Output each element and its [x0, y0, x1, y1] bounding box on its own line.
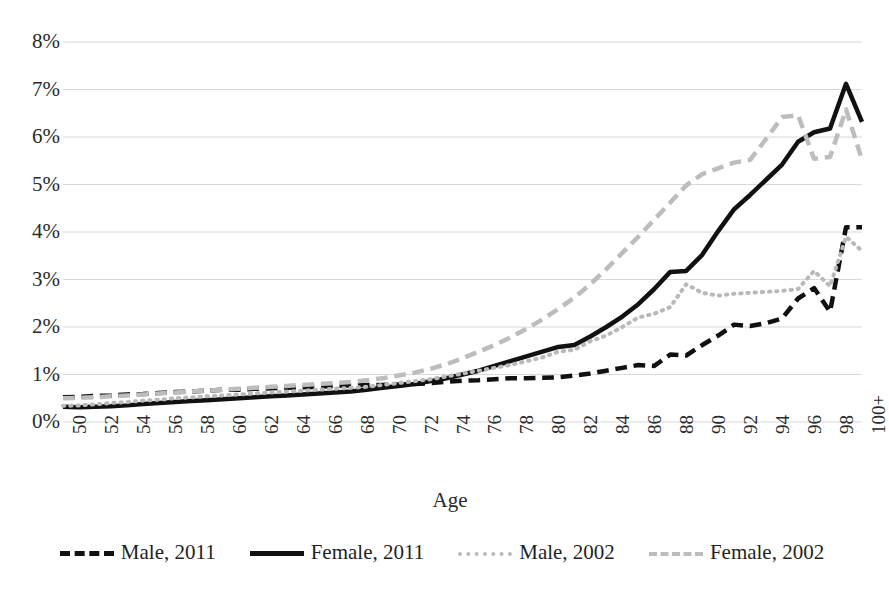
legend-item-female-2011[interactable]: Female, 2011: [250, 540, 425, 565]
x-tick-label: 52: [102, 415, 121, 434]
chart-legend: Male, 2011 Female, 2011 Male, 2002 Femal…: [0, 540, 884, 565]
x-tick-label: 72: [422, 415, 441, 434]
x-tick-label: 82: [581, 415, 600, 434]
x-tick-label: 62: [262, 415, 281, 434]
x-axis-title: Age: [350, 488, 550, 513]
x-tick-label: 76: [485, 415, 504, 434]
x-tick-label: 86: [645, 415, 664, 434]
x-tick-label: 80: [549, 415, 568, 434]
x-tick-label: 88: [677, 415, 696, 434]
x-tick-label: 70: [390, 415, 409, 434]
legend-swatch-dashed-black-icon: [60, 551, 114, 556]
x-tick-label: 64: [294, 415, 313, 434]
series-line-male-2011: [63, 227, 862, 397]
legend-swatch-dashed-gray-icon: [649, 552, 703, 556]
x-tick-label: 100+: [869, 395, 888, 434]
x-tick-label: 94: [773, 415, 792, 434]
legend-item-female-2002[interactable]: Female, 2002: [649, 540, 824, 565]
x-tick-label: 58: [198, 415, 217, 434]
x-tick-label: 84: [613, 415, 632, 434]
series-line-male-2002: [63, 237, 862, 406]
x-tick-label: 92: [741, 415, 760, 434]
series-line-female-2002: [63, 109, 862, 398]
x-tick-label: 60: [230, 415, 249, 434]
legend-item-male-2011[interactable]: Male, 2011: [60, 540, 216, 565]
x-tick-label: 54: [134, 415, 153, 434]
legend-label: Male, 2011: [121, 540, 216, 565]
x-tick-label: 68: [358, 415, 377, 434]
legend-swatch-dotted-gray-icon: [458, 552, 512, 556]
x-tick-label: 98: [837, 415, 856, 434]
x-tick-label: 66: [326, 415, 345, 434]
x-tick-label: 56: [166, 415, 185, 434]
x-tick-label: 90: [709, 415, 728, 434]
legend-label: Female, 2002: [710, 540, 824, 565]
legend-item-male-2002[interactable]: Male, 2002: [458, 540, 615, 565]
series-line-female-2011: [63, 84, 862, 407]
x-tick-label: 74: [454, 415, 473, 434]
x-tick-label: 50: [70, 415, 89, 434]
x-tick-label: 78: [517, 415, 536, 434]
legend-label: Male, 2002: [519, 540, 615, 565]
legend-swatch-solid-black-icon: [250, 551, 304, 556]
legend-label: Female, 2011: [311, 540, 425, 565]
x-tick-label: 96: [805, 415, 824, 434]
